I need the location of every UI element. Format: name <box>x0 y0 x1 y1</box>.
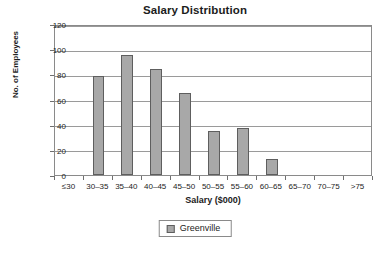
y-tick-label: 60 <box>26 96 66 105</box>
y-tick-label: 20 <box>26 146 66 155</box>
x-tick-label: 40–45 <box>144 182 166 191</box>
plot-area <box>54 25 372 176</box>
legend-swatch-greenville <box>167 225 175 233</box>
bar <box>93 76 105 175</box>
bar <box>179 93 191 175</box>
x-tick-mark <box>170 176 171 180</box>
x-tick-mark <box>343 176 344 180</box>
x-tick-label: 35–40 <box>115 182 137 191</box>
x-tick-mark <box>199 176 200 180</box>
x-tick-mark <box>227 176 228 180</box>
y-tick-label: 40 <box>26 121 66 130</box>
x-tick-mark <box>112 176 113 180</box>
legend-label-greenville: Greenville <box>180 224 221 233</box>
x-tick-label: 45–50 <box>173 182 195 191</box>
x-tick-label: 30–35 <box>86 182 108 191</box>
bar <box>208 131 220 175</box>
bar <box>237 128 249 175</box>
y-tick-label: 80 <box>26 71 66 80</box>
bar <box>266 159 278 175</box>
x-tick-label: 60–65 <box>260 182 282 191</box>
chart-title: Salary Distribution <box>0 4 390 16</box>
bar <box>150 69 162 175</box>
x-tick-label: 50–55 <box>202 182 224 191</box>
y-tick-label: 100 <box>26 46 66 55</box>
x-tick-mark <box>54 176 55 180</box>
x-axis-title: Salary ($000) <box>54 195 372 205</box>
x-tick-label: >75 <box>351 182 365 191</box>
y-tick-mark <box>50 126 54 127</box>
x-tick-label: 55–60 <box>231 182 253 191</box>
x-tick-label: ≤30 <box>62 182 75 191</box>
chart-legend: Greenville <box>159 220 232 237</box>
y-tick-mark <box>50 151 54 152</box>
y-tick-mark <box>50 25 54 26</box>
salary-distribution-chart: Salary Distribution No. of Employees 020… <box>0 0 390 254</box>
x-tick-mark <box>83 176 84 180</box>
x-tick-mark <box>256 176 257 180</box>
bars-layer <box>55 26 371 175</box>
y-tick-mark <box>50 75 54 76</box>
x-tick-mark <box>314 176 315 180</box>
y-tick-mark <box>50 101 54 102</box>
x-tick-label: 65–70 <box>289 182 311 191</box>
x-tick-mark <box>372 176 373 180</box>
y-tick-mark <box>50 50 54 51</box>
bar <box>121 55 133 175</box>
y-tick-label: 0 <box>26 172 66 181</box>
y-tick-label: 120 <box>26 21 66 30</box>
x-tick-mark <box>141 176 142 180</box>
y-axis-title: No. of Employees <box>11 9 20 121</box>
x-tick-mark <box>285 176 286 180</box>
x-tick-label: 70–75 <box>318 182 340 191</box>
